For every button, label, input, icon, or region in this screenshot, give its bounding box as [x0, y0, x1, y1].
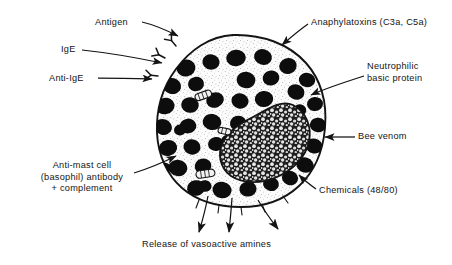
arrow-anaphylatoxins [282, 24, 308, 45]
label-neutrophilic-line-2: basic protein [367, 73, 451, 85]
label-ige: IgE [61, 44, 76, 56]
label-anti-mast-cell-antibody: Anti-mast cell (basophil) antibody + com… [14, 160, 150, 195]
label-antigen: Antigen [95, 17, 128, 29]
ige-receptor-2 [152, 48, 167, 62]
label-antimast-line-3: + complement [14, 183, 150, 195]
arrow-antigen [142, 22, 178, 36]
label-release-of-vasoactive-amines: Release of vasoactive amines [142, 239, 271, 251]
mast-cell-body [145, 34, 327, 215]
label-neutrophilic-basic-protein: Neutrophilic basic protein [367, 61, 451, 84]
label-antimast-line-1: Anti-mast cell [14, 160, 150, 172]
label-anti-ige: Anti-IgE [49, 73, 84, 85]
arrow-ige [82, 50, 162, 63]
label-anaphylatoxins: Anaphylatoxins (C3a, C5a) [311, 17, 427, 29]
arrow-anti-ige [98, 78, 152, 79]
label-chemicals: Chemicals (48/80) [319, 185, 398, 197]
mast-cell-degranulation-figure: Antigen IgE Anti-IgE Anaphylatoxins (C3a… [0, 0, 452, 265]
label-bee-venom: Bee venom [358, 131, 407, 143]
label-neutrophilic-line-1: Neutrophilic [367, 61, 451, 73]
label-antimast-line-2: (basophil) antibody [14, 172, 150, 184]
